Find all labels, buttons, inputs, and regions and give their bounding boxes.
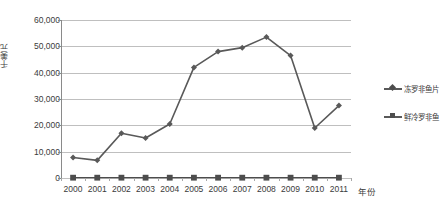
- x-tickmark: [85, 178, 86, 181]
- legend-item-label: 鲜冷罗非鱼: [404, 111, 439, 122]
- diamond-data-point: [239, 45, 245, 51]
- x-axis-tick-labels: 2000200120022003200420052006200720082009…: [61, 184, 351, 200]
- x-tick-label: 2011: [324, 184, 354, 194]
- legend-item-0[interactable]: 冻罗非鱼片: [384, 84, 444, 94]
- x-tickmark: [206, 178, 207, 181]
- y-tick-label: 50,000: [16, 41, 60, 51]
- x-axis-tickmarks: [61, 178, 351, 182]
- x-tickmark: [230, 178, 231, 181]
- legend-item-1[interactable]: 鲜冷罗非鱼: [384, 112, 444, 122]
- y-tick-label: 0: [16, 173, 60, 183]
- square-marker-icon: [390, 113, 395, 118]
- y-tick-label: 10,000: [16, 147, 60, 157]
- y-axis-title: 千美元: [0, 44, 14, 68]
- y-axis-tick-labels: 60,00050,00040,00030,00020,00010,0000: [14, 0, 60, 220]
- legend-item-label: 冻罗非鱼片: [404, 83, 439, 94]
- x-tickmark: [61, 178, 62, 181]
- y-tick-label: 40,000: [16, 68, 60, 78]
- y-tick-label: 30,000: [16, 94, 60, 104]
- x-tickmark: [327, 178, 328, 181]
- x-tickmark: [279, 178, 280, 181]
- x-axis-title: 年份: [358, 185, 376, 197]
- x-tickmark: [109, 178, 110, 181]
- x-tickmark: [134, 178, 135, 181]
- chart-legend: 冻罗非鱼片 鲜冷罗非鱼: [384, 84, 444, 140]
- series-line: [73, 37, 339, 160]
- x-tickmark: [182, 178, 183, 181]
- x-tickmark: [254, 178, 255, 181]
- y-tick-label: 20,000: [16, 120, 60, 130]
- series-layer: [61, 20, 351, 178]
- x-tickmark: [351, 178, 352, 181]
- plot-area: [61, 20, 351, 178]
- diamond-data-point: [70, 154, 76, 160]
- x-tickmark: [303, 178, 304, 181]
- chart-container: 千美元 60,00050,00040,00030,00020,00010,000…: [0, 0, 444, 220]
- x-tickmark: [158, 178, 159, 181]
- y-tick-label: 60,000: [16, 15, 60, 25]
